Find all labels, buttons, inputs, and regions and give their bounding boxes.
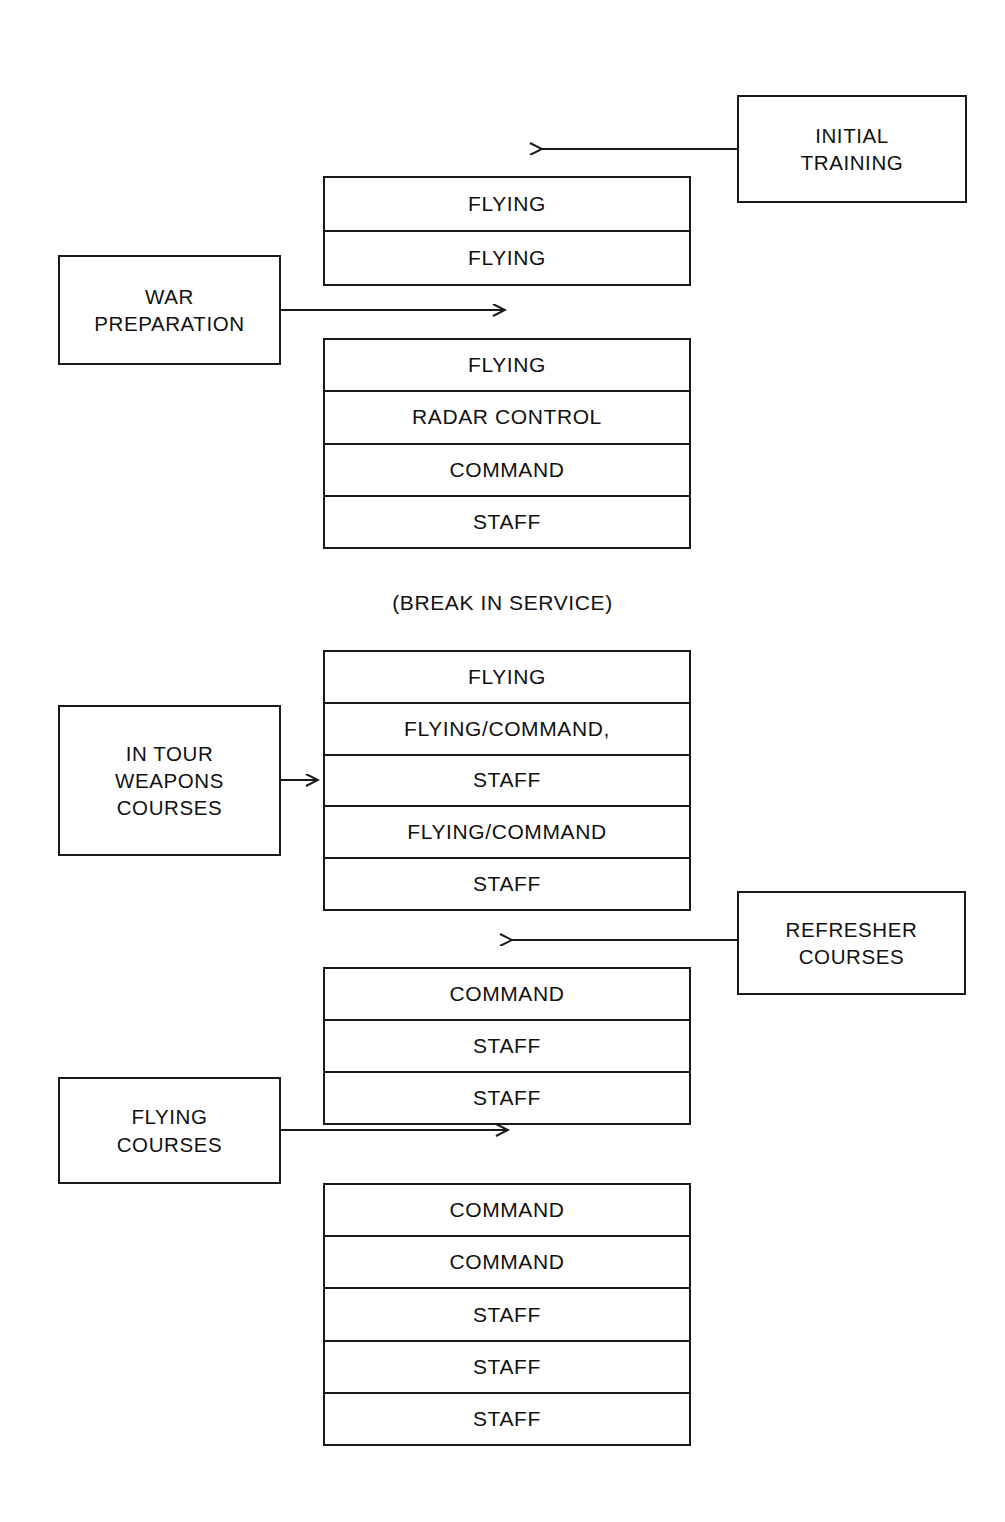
box-refresher-courses-label: REFRESHERCOURSES [786,916,918,970]
stack-row[interactable]: STAFF [325,1342,689,1394]
box-war-preparation-label: WARPREPARATION [94,283,245,337]
box-war-preparation[interactable]: WARPREPARATION [58,255,281,365]
box-flying-courses[interactable]: FLYINGCOURSES [58,1077,281,1184]
stack-group-1: FLYING FLYING [323,176,691,286]
stack-row[interactable]: STAFF [325,1073,689,1123]
box-in-tour-weapons-courses[interactable]: IN TOURWEAPONSCOURSES [58,705,281,856]
box-refresher-courses[interactable]: REFRESHERCOURSES [737,891,966,995]
stack-group-3: FLYING FLYING/COMMAND, STAFF FLYING/COMM… [323,650,691,911]
stack-row[interactable]: STAFF [325,756,689,808]
box-in-tour-weapons-courses-label: IN TOURWEAPONSCOURSES [115,740,224,821]
stack-row[interactable]: FLYING [325,178,689,232]
stack-row[interactable]: COMMAND [325,969,689,1021]
stack-row[interactable]: FLYING [325,340,689,392]
stack-group-4: COMMAND STAFF STAFF [323,967,691,1125]
break-in-service-label: (BREAK IN SERVICE) [392,591,612,614]
stack-row[interactable]: RADAR CONTROL [325,392,689,444]
stack-row[interactable]: FLYING [325,232,689,284]
stack-row[interactable]: STAFF [325,1021,689,1073]
stack-row[interactable]: FLYING/COMMAND [325,807,689,859]
diagram-canvas: INITIALTRAINING WARPREPARATION IN TOURWE… [0,0,1005,1522]
stack-row[interactable]: STAFF [325,1394,689,1444]
stack-group-5: COMMAND COMMAND STAFF STAFF STAFF [323,1183,691,1446]
box-flying-courses-label: FLYINGCOURSES [117,1103,223,1157]
stack-group-2: FLYING RADAR CONTROL COMMAND STAFF [323,338,691,549]
box-initial-training[interactable]: INITIALTRAINING [737,95,967,203]
stack-row[interactable]: STAFF [325,859,689,909]
stack-row[interactable]: FLYING/COMMAND, [325,704,689,756]
stack-row[interactable]: FLYING [325,652,689,704]
stack-row[interactable]: COMMAND [325,445,689,497]
stack-row[interactable]: COMMAND [325,1237,689,1289]
stack-row[interactable]: COMMAND [325,1185,689,1237]
stack-row[interactable]: STAFF [325,1289,689,1341]
box-initial-training-label: INITIALTRAINING [801,122,904,176]
break-in-service-caption: (BREAK IN SERVICE) [0,591,1005,615]
stack-row[interactable]: STAFF [325,497,689,547]
